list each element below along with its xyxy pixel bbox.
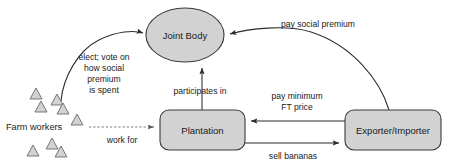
farm-worker-triangle-1: [30, 88, 42, 99]
edge-label-participates-in: participates in: [173, 86, 226, 96]
edge-plantation-to-joint-body: participates in: [173, 68, 226, 110]
edge-exporter-to-plantation: pay minimum FT price: [251, 91, 345, 121]
farm-worker-triangle-3: [35, 101, 47, 112]
farm-worker-triangle-6: [27, 145, 39, 156]
diagram-svg: elect; vote on how social premium is spe…: [0, 0, 454, 168]
edge-label-elect-vote-line3: premium: [87, 74, 120, 84]
edge-label-pay-minimum-line2: FT price: [281, 102, 313, 112]
node-plantation[interactable]: Plantation: [160, 110, 245, 150]
edge-label-elect-vote-line2: how social: [84, 63, 124, 73]
joint-body-label: Joint Body: [163, 30, 208, 41]
edge-label-elect-vote-line4: is spent: [89, 85, 119, 95]
edge-label-pay-minimum-line1: pay minimum: [271, 91, 322, 101]
farm-worker-triangle-5: [46, 138, 58, 149]
node-farm-workers[interactable]: Farm workers: [6, 88, 83, 157]
edge-label-sell-bananas: sell bananas: [269, 151, 317, 161]
edge-plantation-to-exporter: sell bananas: [245, 143, 339, 161]
plantation-label: Plantation: [181, 125, 223, 136]
edge-label-work-for: work for: [106, 135, 138, 145]
edge-label-pay-social-premium: pay social premium: [281, 19, 355, 29]
node-exporter-importer[interactable]: Exporter/Importer: [345, 110, 441, 150]
edge-workers-to-joint-body: elect; vote on how social premium is spe…: [61, 31, 143, 101]
exporter-importer-label: Exporter/Importer: [356, 125, 430, 136]
edge-label-elect-vote-line1: elect; vote on: [78, 52, 129, 62]
diagram-canvas: elect; vote on how social premium is spe…: [0, 0, 454, 168]
node-joint-body[interactable]: Joint Body: [146, 8, 224, 62]
edge-workers-to-plantation: work for: [89, 127, 154, 145]
farm-worker-triangle-8: [71, 114, 83, 125]
farm-workers-label: Farm workers: [6, 122, 63, 132]
